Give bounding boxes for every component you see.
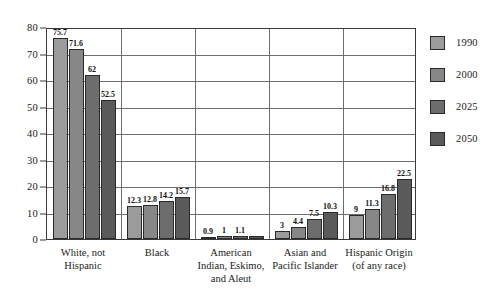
legend-swatch	[430, 36, 445, 50]
bar	[159, 201, 174, 239]
bar-wrapper: 4.4	[291, 29, 306, 239]
bar	[175, 197, 190, 239]
bar	[323, 212, 338, 239]
y-axis-tick-label: 20	[27, 182, 38, 193]
bar-value-label: 0.9	[203, 228, 213, 236]
bar-wrapper: 0.9	[201, 29, 216, 239]
bar	[201, 237, 216, 239]
legend-swatch	[430, 68, 445, 82]
y-axis-tick-label: 10	[27, 208, 38, 219]
legend-label: 2050	[456, 134, 478, 145]
bar-wrapper: 12.8	[143, 29, 158, 239]
bar-wrapper: 15.7	[175, 29, 190, 239]
bar-group: 75.771.66252.5	[47, 29, 121, 239]
y-axis-tick-label: 0	[33, 235, 38, 246]
bar-value-label: 75.7	[53, 29, 67, 37]
bar	[365, 209, 380, 239]
bar-wrapper: 52.5	[101, 29, 116, 239]
bar	[349, 215, 364, 239]
bar	[143, 205, 158, 239]
bar	[101, 100, 116, 239]
bar-value-label: 7.5	[309, 210, 319, 218]
legend: 1990200020252050	[430, 27, 500, 155]
bar-wrapper: 1	[217, 29, 232, 239]
bar-value-label: 10.3	[323, 203, 337, 211]
bar	[69, 49, 84, 239]
bar-wrapper: 7.5	[307, 29, 322, 239]
bar	[217, 236, 232, 239]
legend-item[interactable]: 2000	[430, 59, 500, 91]
bar	[275, 231, 290, 239]
bar-value-label: 14.2	[159, 192, 173, 200]
y-axis: 01020304050607080	[0, 28, 46, 240]
bar-value-label: 52.5	[101, 91, 115, 99]
bar-value-label: 16.8	[381, 185, 395, 193]
y-axis-tick-label: 50	[27, 102, 38, 113]
bar-wrapper: 62	[85, 29, 100, 239]
bar-value-label: 4.4	[293, 218, 303, 226]
legend-item[interactable]: 2025	[430, 91, 500, 123]
legend-item[interactable]: 2050	[430, 123, 500, 155]
legend-item[interactable]: 1990	[430, 27, 500, 59]
bar-value-label: 15.7	[175, 188, 189, 196]
y-axis-tick-label: 30	[27, 155, 38, 166]
bar-wrapper: 10.3	[323, 29, 338, 239]
bar	[397, 179, 412, 239]
category-label: Hispanic Origin (of any race)	[330, 246, 428, 272]
bar-wrapper: 11.3	[365, 29, 380, 239]
bar	[249, 236, 264, 239]
bar-value-label: 71.6	[69, 40, 83, 48]
bar	[381, 194, 396, 239]
bar-group: 911.316.822.5	[343, 29, 417, 239]
legend-swatch	[430, 132, 445, 146]
bar-value-label: 3	[280, 222, 284, 230]
bar-wrapper: 1.1	[233, 29, 248, 239]
bar	[85, 75, 100, 239]
bar-value-label: 12.3	[127, 197, 141, 205]
bar-wrapper: 9	[349, 29, 364, 239]
y-axis-tick-label: 60	[27, 76, 38, 87]
bar-value-label: 1	[222, 227, 226, 235]
bar	[127, 206, 142, 239]
bar-wrapper: 75.7	[53, 29, 68, 239]
bar-chart-figure: 01020304050607080 75.771.66252.512.312.8…	[0, 0, 500, 295]
y-axis-tick-label: 70	[27, 49, 38, 60]
bar-value-label: 11.3	[365, 200, 379, 208]
bar-group: 0.911.1	[195, 29, 269, 239]
bar-value-label: 9	[354, 206, 358, 214]
bar-wrapper	[249, 29, 264, 239]
legend-label: 1990	[456, 38, 478, 49]
bar-wrapper: 14.2	[159, 29, 174, 239]
legend-swatch	[430, 100, 445, 114]
y-axis-tick-label: 80	[27, 23, 38, 34]
bar-group: 34.47.510.3	[269, 29, 343, 239]
bar-wrapper: 16.8	[381, 29, 396, 239]
bar	[291, 227, 306, 239]
bar	[233, 236, 248, 239]
bar-value-label: 22.5	[397, 170, 411, 178]
bar-group: 12.312.814.215.7	[121, 29, 195, 239]
bar-value-label: 62	[88, 66, 96, 74]
bar-value-label: 1.1	[235, 227, 245, 235]
bar-value-label: 12.8	[143, 196, 157, 204]
bar-wrapper: 3	[275, 29, 290, 239]
plot-area: 75.771.66252.512.312.814.215.70.911.134.…	[46, 28, 416, 240]
bar-wrapper: 71.6	[69, 29, 84, 239]
bar-wrapper: 12.3	[127, 29, 142, 239]
bar-wrapper: 22.5	[397, 29, 412, 239]
legend-label: 2025	[456, 102, 478, 113]
bar	[53, 38, 68, 239]
legend-label: 2000	[456, 70, 478, 81]
y-axis-tick-label: 40	[27, 129, 38, 140]
bar	[307, 219, 322, 239]
